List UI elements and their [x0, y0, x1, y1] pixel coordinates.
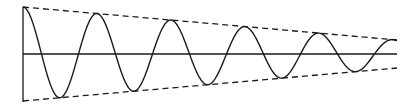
upper-envelope-line — [23, 7, 397, 40]
damped-oscillation-diagram — [0, 0, 418, 108]
damped-wave-curve — [23, 7, 397, 98]
